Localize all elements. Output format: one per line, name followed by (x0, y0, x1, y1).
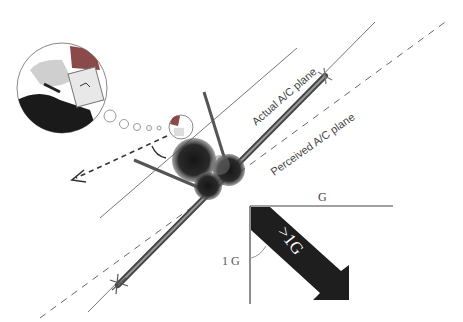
one-g-label: 1 G (222, 254, 240, 268)
aircraft-body (172, 138, 245, 200)
thought-bubble (17, 43, 107, 140)
pilot-helmet-icon (169, 115, 193, 139)
thought-bubble-trail (104, 110, 161, 131)
spatial-disorientation-diagram: Actual A/C plane Perceived A/C plane G 1… (0, 0, 463, 322)
resultant-g-arrow (251, 207, 349, 300)
g-force-diagram: G 1 G >1G (222, 190, 393, 304)
g-top-label: G (318, 190, 327, 204)
tilt-arc (152, 146, 166, 158)
arrowhead-icon (72, 170, 86, 182)
angle-arc (251, 246, 266, 258)
